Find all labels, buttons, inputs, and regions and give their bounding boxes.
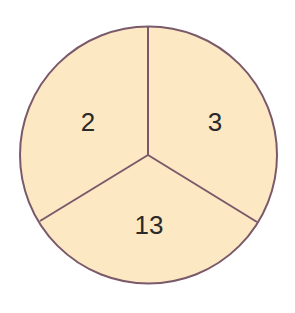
divided-circle-diagram: 2 3 13 — [0, 0, 295, 313]
section-label-top-right: 3 — [208, 107, 222, 137]
section-label-top-left: 2 — [81, 107, 95, 137]
section-label-bottom: 13 — [135, 210, 164, 240]
